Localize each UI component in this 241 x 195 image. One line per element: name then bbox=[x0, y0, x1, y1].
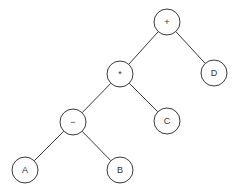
tree-node-C: C bbox=[154, 108, 180, 134]
node-label: + bbox=[164, 17, 169, 27]
tree-node-plus: + bbox=[154, 9, 180, 35]
tree-node-mult: * bbox=[107, 61, 133, 87]
tree-node-minus: − bbox=[60, 109, 86, 135]
node-label: * bbox=[118, 69, 122, 79]
tree-node-D: D bbox=[201, 60, 227, 86]
tree-nodes: +*D−CAB bbox=[12, 9, 227, 183]
node-label: B bbox=[117, 165, 123, 175]
edge-minus-to-A bbox=[34, 131, 64, 161]
expression-tree-diagram: +*D−CAB bbox=[0, 0, 241, 195]
edge-minus-to-B bbox=[82, 131, 111, 160]
tree-edges bbox=[34, 32, 205, 161]
edge-plus-to-mult bbox=[129, 32, 159, 65]
edge-mult-to-C bbox=[129, 83, 158, 112]
edge-mult-to-minus bbox=[82, 83, 111, 112]
node-label: C bbox=[164, 116, 171, 126]
tree-node-B: B bbox=[107, 157, 133, 183]
edge-plus-to-D bbox=[176, 32, 205, 64]
node-label: − bbox=[70, 117, 75, 127]
node-label: A bbox=[22, 165, 28, 175]
tree-node-A: A bbox=[12, 157, 38, 183]
node-label: D bbox=[211, 68, 218, 78]
